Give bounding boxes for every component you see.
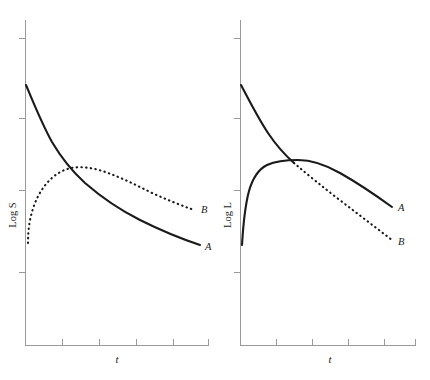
figure-canvas: Log S t B A Log L <box>0 0 430 380</box>
right-panel-label-b: B <box>398 236 405 247</box>
left-panel-label-a: A <box>204 241 212 252</box>
right-panel-label-a: A <box>397 202 405 213</box>
left-panel-label-b: B <box>201 204 208 215</box>
left-panel-curve-a <box>26 85 200 245</box>
right-panel-curve-b-solid <box>241 85 294 163</box>
left-panel-x-ticks <box>63 339 209 346</box>
left-panel-y-ticks <box>19 39 26 273</box>
right-panel-curve-a <box>242 160 392 245</box>
right-panel-x-ticks <box>277 339 416 346</box>
right-panel-y-axis-label: Log L <box>222 202 233 228</box>
left-panel-curve-b <box>28 167 194 243</box>
right-panel: Log L t A B <box>222 20 416 365</box>
right-panel-x-axis-label: t <box>328 353 332 365</box>
left-panel-x-axis-label: t <box>115 353 119 365</box>
left-panel-y-axis-label: Log S <box>7 202 18 228</box>
right-panel-y-ticks <box>234 39 241 273</box>
left-panel: Log S t B A <box>7 20 212 365</box>
